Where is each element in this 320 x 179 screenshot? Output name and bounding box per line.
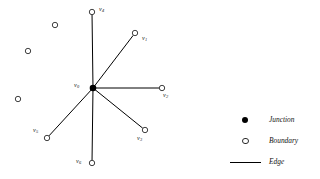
vertex-label-v3: v3 — [137, 135, 142, 141]
boundary-vertex-v6 — [89, 160, 94, 165]
edge-v0-v6 — [92, 88, 93, 160]
legend-label-junction: Junction — [269, 116, 294, 123]
vertex-label-v1: v1 — [142, 35, 147, 41]
legend-row-junction: Junction — [229, 112, 317, 128]
edge-v0-v5 — [49, 88, 93, 136]
legend-row-boundary: Boundary — [229, 133, 317, 149]
vertex-label-v0: v0 — [74, 82, 79, 88]
line-segment-icon — [230, 162, 261, 163]
edge-symbol — [229, 154, 263, 170]
open-circle-icon — [242, 138, 249, 145]
filled-dot-icon — [242, 117, 248, 123]
vertex-label-v5: v5 — [33, 127, 38, 133]
vertex-label-v4: v4 — [99, 6, 104, 12]
boundary-vertex-v3 — [142, 127, 147, 132]
junction-vertex-v0 — [90, 85, 97, 92]
junction-vertex-group — [90, 85, 97, 92]
figure-canvas: v0v4v1v2v3v6v5 Junction Boundary Edge — [0, 0, 320, 179]
boundary-vertex-v2 — [159, 85, 164, 90]
legend-row-edge: Edge — [229, 154, 317, 170]
legend-label-boundary: Boundary — [269, 137, 298, 144]
edge-v0-v3 — [93, 88, 142, 128]
edge-v0-v4 — [92, 15, 93, 88]
legend-label-edge: Edge — [269, 158, 284, 165]
boundary-vertex-v4 — [89, 9, 94, 14]
junction-symbol — [229, 112, 263, 128]
vertex-label-v2: v2 — [163, 92, 168, 98]
boundary-vertex-v5 — [44, 135, 49, 140]
edge-v0-v1 — [93, 36, 133, 88]
isolated-boundary-vertex-iso2 — [25, 48, 30, 53]
vertex-label-v6: v6 — [76, 158, 81, 164]
boundary-symbol — [229, 133, 263, 149]
boundary-vertex-v1 — [132, 30, 137, 35]
legend: Junction Boundary Edge — [229, 112, 317, 170]
isolated-boundary-vertex-iso1 — [52, 22, 57, 27]
isolated-boundary-vertex-iso3 — [15, 96, 20, 101]
isolated-boundary-vertices-group — [15, 22, 57, 101]
